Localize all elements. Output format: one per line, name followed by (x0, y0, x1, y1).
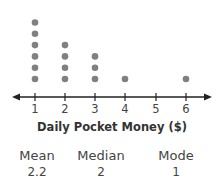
median-label: Median (66, 148, 136, 163)
x-tick-label: 1 (31, 102, 38, 116)
mean-value: 2.2 (2, 165, 72, 179)
mean-label: Mean (2, 148, 72, 163)
mode-stat: Mode 1 (141, 148, 211, 179)
x-tick-label: 4 (121, 102, 128, 116)
x-tick-label: 3 (91, 102, 98, 116)
data-dot (183, 76, 190, 83)
median-stat: Median 2 (66, 148, 136, 179)
median-value: 2 (66, 165, 136, 179)
data-dot (122, 76, 129, 83)
mode-value: 1 (141, 165, 211, 179)
data-dot (92, 76, 99, 83)
data-dot (62, 42, 69, 49)
data-dot (92, 53, 99, 60)
x-tick-label: 5 (152, 102, 159, 116)
data-dot (32, 76, 39, 83)
right-arrow-icon (204, 94, 212, 101)
data-dot (62, 76, 69, 83)
summary-stats: Mean 2.2 Median 2 Mode 1 (0, 148, 224, 192)
data-dot (32, 31, 39, 38)
left-arrow-icon (12, 94, 20, 101)
data-dot (62, 64, 69, 71)
data-dot (32, 19, 39, 26)
x-tick-label: 6 (182, 102, 189, 116)
x-axis-label: Daily Pocket Money ($) (0, 120, 224, 134)
data-dot (32, 64, 39, 71)
mean-stat: Mean 2.2 (2, 148, 72, 179)
x-tick-label: 2 (61, 102, 68, 116)
dot-plot: 123456 (0, 0, 224, 125)
data-dot (62, 53, 69, 60)
mode-label: Mode (141, 148, 211, 163)
data-dot (92, 64, 99, 71)
data-dot (32, 42, 39, 49)
data-dot (32, 53, 39, 60)
